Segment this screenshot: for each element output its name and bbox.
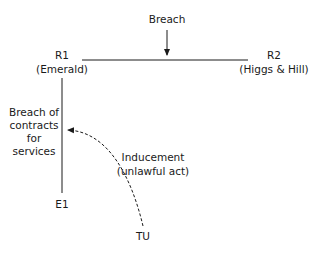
r1-detail: (Emerald) [36, 63, 88, 76]
breach-label: Breach [149, 13, 186, 26]
tu-label: TU [136, 230, 150, 243]
inducement-label: Inducement [122, 151, 185, 164]
inducement-arrow [68, 130, 143, 226]
side-label-line1: Breach of [9, 106, 59, 119]
e1-label: E1 [55, 198, 68, 211]
r2-detail: (Higgs & Hill) [239, 63, 308, 76]
side-label-line2: contracts [9, 119, 58, 132]
r1-label: R1 [55, 49, 69, 62]
side-label-line3: for [27, 132, 41, 145]
side-label-line4: services [12, 145, 55, 158]
r2-label: R2 [267, 49, 281, 62]
inducement-detail: (unlawful act) [117, 165, 189, 178]
